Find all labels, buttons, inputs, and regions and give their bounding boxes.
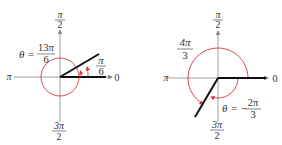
left-terminal-side — [60, 54, 99, 77]
right-diagram: π 2 π 0 3π 2 4π 3 θ = − 2π 3 — [163, 9, 277, 141]
left-angle-numerator: π — [98, 55, 104, 66]
right-theta-denominator: 3 — [250, 109, 255, 120]
right-theta-label: θ = − — [222, 102, 248, 114]
left-theta-numerator: 13π — [38, 42, 55, 53]
left-diagram: π 2 π 0 3π 2 θ = 13π 6 π 6 — [6, 9, 119, 142]
left-axis-left-label: π — [6, 71, 12, 82]
right-axis-top-denominator: 2 — [216, 19, 221, 30]
left-angle-arc-arrow-icon — [87, 67, 88, 77]
left-axis-top-denominator: 2 — [58, 19, 63, 30]
right-axis-bottom-numerator: 3π — [211, 119, 223, 130]
right-axis-left-label: π — [163, 72, 169, 83]
right-angle-numerator: 4π — [179, 36, 191, 48]
polar-angle-diagrams: π 2 π 0 3π 2 θ = 13π 6 π 6 π 2 π 0 — [0, 0, 282, 145]
right-angle-denominator: 3 — [182, 49, 188, 61]
right-negative-arc-arrow-icon — [211, 78, 238, 98]
left-angle-denominator: 6 — [98, 66, 103, 77]
right-axis-right-label: 0 — [273, 73, 278, 84]
left-theta-denominator: 6 — [43, 54, 48, 65]
left-axis-right-label: 0 — [115, 72, 120, 83]
right-axis-bottom-denominator: 2 — [215, 130, 220, 141]
left-theta-label: θ = — [19, 48, 35, 60]
right-theta-numerator: 2π — [248, 97, 259, 108]
left-axis-bottom-numerator: 3π — [53, 120, 65, 131]
left-axis-bottom-denominator: 2 — [57, 131, 62, 142]
